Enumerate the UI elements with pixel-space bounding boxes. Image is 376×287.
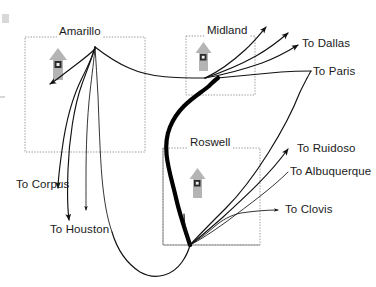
route-bottom-sweep [112, 232, 190, 276]
north-arrow-icon-midland [196, 42, 212, 71]
route-amarillo-to-houston [68, 47, 95, 220]
route-amarillo-to-corpus [58, 47, 95, 188]
destination-label-to-clovis: To Clovis [285, 204, 333, 216]
route-roswell-to-clovis [190, 210, 278, 245]
destination-label-to-dallas: To Dallas [302, 38, 350, 50]
routes-roswell [184, 71, 311, 245]
route-diagram: Amarillo Midland Roswell To Dallas To Pa… [0, 0, 376, 287]
route-nodes [188, 243, 191, 246]
destination-label-to-houston: To Houston [50, 224, 109, 236]
region-box-amarillo [25, 37, 145, 152]
region-label-roswell: Roswell [188, 137, 232, 149]
region-label-midland: Midland [205, 25, 249, 37]
north-arrow-icon-roswell [190, 168, 206, 198]
destination-label-to-ruidoso: To Ruidoso [297, 143, 356, 155]
route-roswell-to-ruidoso [190, 149, 288, 245]
route-roswell-to-paris [190, 71, 311, 245]
destination-label-to-albuquerque: To Albuquerque [290, 166, 371, 178]
route-amarillo-mid-branch [86, 47, 95, 210]
route-trunk-roswell-midland [166, 78, 218, 245]
faint-artifacts [0, 14, 9, 98]
region-box-midland [186, 36, 255, 95]
destination-label-to-paris: To Paris [313, 66, 355, 78]
region-label-amarillo: Amarillo [57, 26, 103, 38]
route-amarillo-outer-branch [95, 47, 112, 232]
north-arrow-icon-amarillo [49, 48, 67, 80]
route-roswell-to-albuquerque [190, 172, 288, 245]
destination-label-to-corpus: To Corpus [16, 179, 69, 191]
route-amarillo-to-midland [95, 47, 206, 78]
